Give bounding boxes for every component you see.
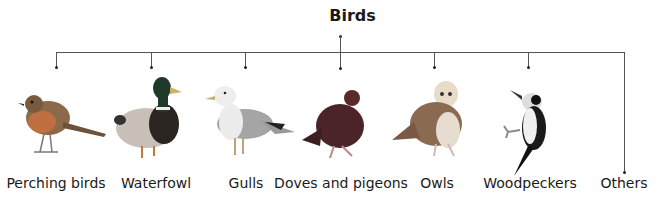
category-label-gulls: Gulls bbox=[229, 175, 264, 191]
category-label-others: Others bbox=[600, 175, 647, 191]
horizontal-bar bbox=[56, 52, 625, 53]
category-label-woodpeckers: Woodpeckers bbox=[483, 175, 577, 191]
category-label-waterfowl: Waterfowl bbox=[121, 175, 191, 191]
category-label-owls: Owls bbox=[420, 175, 454, 191]
gull-icon bbox=[205, 82, 297, 158]
drop-dot bbox=[623, 171, 626, 174]
drop-dot bbox=[433, 66, 436, 69]
drop-perching bbox=[56, 52, 57, 67]
category-label-perching-birds: Perching birds bbox=[6, 175, 105, 191]
drop-others bbox=[624, 52, 625, 172]
drop-dot bbox=[150, 66, 153, 69]
drop-waterfowl bbox=[151, 52, 152, 67]
drop-owls bbox=[434, 52, 435, 67]
duck-icon bbox=[114, 74, 184, 160]
diagram-title: Birds bbox=[22, 6, 661, 25]
robin-icon bbox=[18, 92, 110, 157]
category-label-doves-and-pigeons: Doves and pigeons bbox=[274, 175, 408, 191]
drop-dot bbox=[244, 66, 247, 69]
drop-dot bbox=[527, 66, 530, 69]
pigeon-icon bbox=[302, 88, 366, 160]
owl-icon bbox=[392, 78, 468, 158]
drop-gulls bbox=[245, 52, 246, 67]
woodpecker-icon bbox=[500, 90, 556, 176]
drop-dot bbox=[55, 66, 58, 69]
drop-woodpeckers bbox=[528, 52, 529, 67]
root-dot-bottom bbox=[339, 67, 342, 70]
